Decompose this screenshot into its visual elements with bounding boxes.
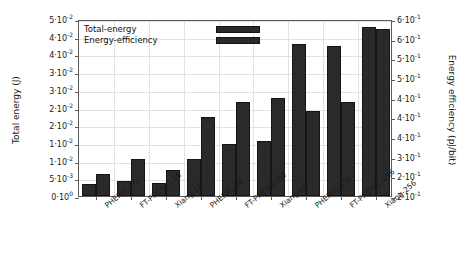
x-axis-category-label: Xiang-256 <box>383 203 389 210</box>
x-axis-category-label: FT-PHENIC-256 <box>348 203 354 210</box>
x-axis-tick <box>166 196 167 200</box>
y-axis-right-tick-label: 6·10-1 <box>397 37 421 45</box>
bar-total-energy <box>82 184 96 196</box>
y-axis-right-tick-label: 3·10-1 <box>397 155 421 163</box>
x-axis-tick <box>201 196 202 200</box>
y-axis-left-tick <box>75 74 79 75</box>
y-axis-left-tick <box>75 21 79 22</box>
x-axis-category-label: PHENIC-256 <box>313 203 319 210</box>
x-axis-tick <box>376 196 377 200</box>
y-axis-right-tick <box>391 60 395 61</box>
energy-bar-chart: Total energy (J) Energy efficiency (pJ/b… <box>0 0 472 254</box>
legend-entry-energy-efficiency: Energy-efficiency <box>84 35 264 46</box>
y-axis-left-tick-label: 2·10-2 <box>49 106 73 114</box>
x-axis-tick <box>236 196 237 200</box>
y-axis-left-tick <box>75 92 79 93</box>
x-axis-category-label: PHENIC-64 <box>208 203 214 210</box>
y-axis-right-tick <box>391 100 395 101</box>
legend-label-energy-efficiency: Energy-efficiency <box>84 35 157 46</box>
bar-layer <box>79 21 391 196</box>
y-axis-left-tick <box>75 198 79 199</box>
bar-energy-efficiency <box>306 111 320 196</box>
y-axis-right-tick <box>391 80 395 81</box>
bar-total-energy <box>362 27 376 196</box>
x-axis-tick <box>271 196 272 200</box>
y-axis-right-tick-label: 5·10-1 <box>397 56 421 64</box>
y-axis-right-tick-label: 6·10-1 <box>397 17 421 25</box>
y-axis-right-tick-label: 5·10-1 <box>397 76 421 84</box>
y-axis-left-tick <box>75 39 79 40</box>
y-axis-left-tick-label: 3·10-2 <box>49 70 73 78</box>
y-axis-left-tick <box>75 180 79 181</box>
x-axis-category-label: PHENIC-16 <box>103 203 109 210</box>
legend-swatch-energy-efficiency <box>216 37 260 44</box>
x-axis-tick <box>96 196 97 200</box>
y-axis-right-tick <box>391 21 395 22</box>
y-axis-left-tick-label: 4·10-2 <box>49 52 73 60</box>
bar-total-energy <box>292 44 306 196</box>
y-axis-right-title: Energy efficiency (pJ/bit) <box>447 50 457 170</box>
legend-label-total-energy: Total-energy <box>84 24 137 35</box>
y-axis-right-tick-label: 4·10-1 <box>397 96 421 104</box>
y-axis-left-tick-label: 1·10-2 <box>49 159 73 167</box>
y-axis-left-tick <box>75 110 79 111</box>
y-axis-left-tick-label: 3·10-2 <box>49 88 73 96</box>
y-axis-left-title: Total energy (J) <box>11 50 21 170</box>
y-axis-left-tick-label: 2·10-2 <box>49 123 73 131</box>
y-axis-right-tick <box>391 41 395 42</box>
x-axis-tick <box>341 196 342 200</box>
plot-area: 0·1005·10-31·10-21·10-22·10-22·10-23·10-… <box>78 20 392 197</box>
bar-total-energy <box>327 46 341 196</box>
bar-energy-efficiency <box>96 174 110 196</box>
y-axis-left-tick <box>75 163 79 164</box>
y-axis-left-tick-label: 4·10-2 <box>49 35 73 43</box>
y-axis-left-tick-label: 1·10-2 <box>49 141 73 149</box>
y-axis-left-tick-label: 0·100 <box>51 194 73 202</box>
y-axis-left-tick-label: 5·10-2 <box>49 17 73 25</box>
y-axis-right-tick <box>391 159 395 160</box>
legend-entry-total-energy: Total-energy <box>84 24 264 35</box>
y-axis-right-tick-label: 4·10-1 <box>397 115 421 123</box>
y-axis-left-tick <box>75 56 79 57</box>
x-axis-category-label: Xiang-16 <box>173 203 179 210</box>
y-axis-right-tick <box>391 119 395 120</box>
chart-legend: Total-energy Energy-efficiency <box>84 24 264 46</box>
x-axis-category-label: FT-PHENIC-64 <box>243 203 249 210</box>
x-axis-category-label: FT-PHENIC-16 <box>138 203 144 210</box>
y-axis-left-tick <box>75 145 79 146</box>
x-axis-tick <box>131 196 132 200</box>
y-axis-left-tick-label: 5·10-3 <box>49 176 73 184</box>
y-axis-left-tick <box>75 127 79 128</box>
x-axis-tick <box>306 196 307 200</box>
y-axis-right-tick-label: 4·10-1 <box>397 135 421 143</box>
legend-swatch-total-energy <box>216 26 260 33</box>
y-axis-right-tick <box>391 139 395 140</box>
bar-energy-efficiency <box>201 117 215 196</box>
x-axis-category-label: Xiang-64 <box>278 203 284 210</box>
